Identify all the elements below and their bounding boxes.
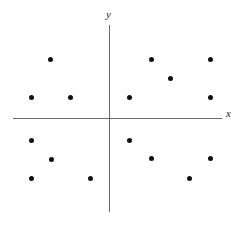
- data-point: [168, 76, 173, 81]
- x-axis-label: x: [226, 108, 231, 119]
- data-point: [149, 57, 154, 62]
- data-point: [29, 138, 34, 143]
- y-axis-label: y: [106, 9, 111, 20]
- data-point: [149, 156, 154, 161]
- data-point: [49, 157, 54, 162]
- data-point: [187, 176, 192, 181]
- data-point: [208, 57, 213, 62]
- data-point: [48, 57, 53, 62]
- data-point: [29, 176, 34, 181]
- y-axis-line: [109, 25, 110, 212]
- data-point: [88, 176, 93, 181]
- data-point: [208, 95, 213, 100]
- data-point: [127, 95, 132, 100]
- data-point: [29, 95, 34, 100]
- data-point: [68, 95, 73, 100]
- data-point: [208, 156, 213, 161]
- x-axis-line: [13, 118, 222, 119]
- scatter-plot-figure: x y: [0, 0, 244, 226]
- data-point: [127, 138, 132, 143]
